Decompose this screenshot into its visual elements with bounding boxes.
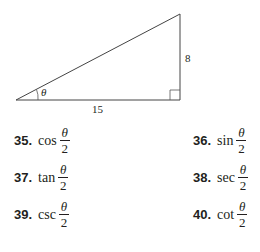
right-angle-marker xyxy=(170,90,180,100)
problem-36: 36. sin θ2 xyxy=(193,126,246,155)
adjacent-length-label: 15 xyxy=(92,103,103,115)
problem-number: 37. xyxy=(14,170,32,185)
fraction: θ2 xyxy=(238,163,248,192)
fraction: θ2 xyxy=(59,200,69,229)
problem-40: 40. cot θ2 xyxy=(193,200,247,229)
trig-function: csc xyxy=(38,207,56,223)
problem-number: 39. xyxy=(14,207,32,222)
problem-35: 35. cos θ2 xyxy=(14,126,70,155)
opposite-length-label: 8 xyxy=(185,52,191,64)
angle-arc xyxy=(37,90,39,101)
trig-function: cot xyxy=(217,207,234,223)
fraction: θ2 xyxy=(237,200,247,229)
trig-function: sin xyxy=(217,133,233,149)
problem-37: 37. tan θ2 xyxy=(14,163,68,192)
problem-38: 38. sec θ2 xyxy=(193,163,248,192)
right-triangle-figure: θ 15 8 xyxy=(0,0,260,120)
triangle-svg xyxy=(0,0,260,120)
fraction: θ2 xyxy=(236,126,246,155)
problem-number: 36. xyxy=(193,133,211,148)
trig-function: sec xyxy=(217,170,235,186)
problem-number: 35. xyxy=(14,133,32,148)
fraction: θ2 xyxy=(58,163,68,192)
angle-theta-label: θ xyxy=(41,86,46,98)
problem-number: 38. xyxy=(193,170,211,185)
fraction: θ2 xyxy=(60,126,70,155)
trig-function: cos xyxy=(38,133,57,149)
problem-number: 40. xyxy=(193,207,211,222)
trig-function: tan xyxy=(38,170,55,186)
problem-39: 39. csc θ2 xyxy=(14,200,69,229)
